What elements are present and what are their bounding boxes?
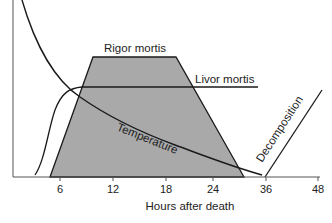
decomposition-label: Decomposition: [254, 94, 305, 164]
tick-label-24: 24: [207, 183, 219, 195]
tick-label-6: 6: [57, 183, 63, 195]
tick-label-48: 48: [312, 183, 324, 195]
tick-label-36: 36: [260, 183, 272, 195]
rigor-mortis-label: Rigor mortis: [104, 42, 166, 54]
livor-mortis-label: Livor mortis: [195, 73, 255, 85]
tick-label-12: 12: [107, 183, 119, 195]
tick-label-18: 18: [160, 183, 172, 195]
x-axis-label: Hours after death: [146, 200, 235, 212]
postmortem-chart: 6 12 18 24 36 48 Hours after death Rigor…: [0, 0, 332, 223]
